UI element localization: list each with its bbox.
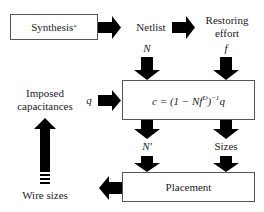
formula-text: c = (1 − NfD)−1q — [152, 94, 225, 107]
synthesis-box: Synthesis* — [10, 14, 98, 40]
netlist-label: Netlist — [131, 21, 171, 34]
arrow-down-icon — [134, 57, 160, 80]
arrow-down-icon — [134, 120, 160, 139]
restoring-effort-label: Restoring effort — [196, 14, 258, 40]
imposed-capacitances-label: Imposed capacitances — [5, 87, 85, 113]
q-label: q — [84, 94, 94, 107]
placement-box: Placement — [122, 172, 255, 202]
formula-box: c = (1 − NfD)−1q — [122, 80, 255, 120]
n-label: N — [140, 42, 154, 55]
n-prime-label: N′ — [138, 140, 156, 153]
wire-sizes-label: Wire sizes — [15, 189, 75, 202]
arrow-down-icon — [213, 156, 239, 172]
f-label: f — [219, 42, 233, 55]
synthesis-asterisk: * — [73, 23, 77, 31]
arrow-up-icon — [34, 118, 56, 184]
arrow-down-icon — [213, 57, 239, 80]
arrow-down-icon — [134, 156, 160, 172]
arrow-left-icon — [99, 176, 122, 200]
arrow-down-icon — [213, 120, 239, 139]
placement-label: Placement — [166, 181, 212, 193]
arrow-right-icon — [98, 90, 121, 111]
sizes-label: Sizes — [208, 140, 244, 153]
arrow-right-icon — [98, 16, 121, 39]
arrow-right-icon — [172, 16, 195, 39]
synthesis-label: Synthesis — [31, 21, 73, 33]
